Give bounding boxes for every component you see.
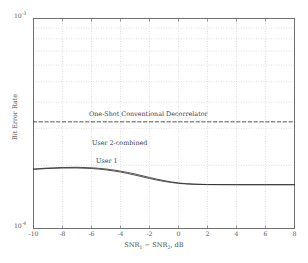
plot-frame [34, 19, 295, 229]
y-axis-tick-top: 10-3 [14, 11, 26, 19]
chart-plot-area [0, 0, 308, 263]
x-axis-title: SNR1 − SNR2, dB [0, 241, 308, 250]
grid-minor-lines [34, 28, 295, 165]
x-axis-ticks [34, 19, 295, 229]
xlabel-snr1: SNR [124, 241, 139, 249]
x-axis-tick-label: 0 [177, 230, 181, 237]
grid-vertical-lines [63, 19, 266, 229]
series-user-2-combined [34, 167, 295, 184]
annotation-user-1: User 1 [96, 157, 118, 165]
y-tick-top-mantissa: 10 [14, 12, 22, 19]
x-axis-tick-label: 2 [206, 230, 210, 237]
y-axis-tick-bottom: 10-4 [14, 221, 26, 229]
data-series-layer [34, 122, 295, 185]
xlabel-minus: − [143, 241, 153, 249]
series-user-1 [34, 168, 295, 185]
y-axis-title: Bit Error Rate [11, 77, 19, 157]
x-axis-tick-label: 6 [264, 230, 268, 237]
x-axis-tick-label: -4 [118, 230, 124, 237]
x-axis-tick-label: -8 [60, 230, 66, 237]
x-axis-tick-label: 4 [235, 230, 239, 237]
xlabel-units: , dB [170, 241, 183, 249]
y-tick-bot-mantissa: 10 [14, 222, 22, 229]
x-axis-tick-label: -10 [29, 230, 39, 237]
x-axis-tick-label: 8 [293, 230, 297, 237]
annotation-decorrelator: One-Shot Conventional Decorrelator [89, 110, 208, 118]
x-axis-tick-label: -2 [147, 230, 153, 237]
annotation-user-2-combined: User 2-combined [92, 139, 147, 147]
xlabel-snr2: SNR [152, 241, 167, 249]
x-axis-tick-label: -6 [89, 230, 95, 237]
figure-canvas: 10-3 10-4 -10-8-6-4-202468 SNR1 − SNR2, … [0, 0, 308, 263]
y-tick-top-exponent: -3 [22, 11, 26, 16]
y-tick-bot-exponent: -4 [22, 221, 26, 226]
